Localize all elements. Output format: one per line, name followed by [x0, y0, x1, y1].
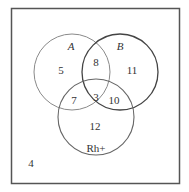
region-rh-only: 12: [90, 120, 101, 132]
region-a-only: 5: [58, 64, 64, 76]
region-outside: 4: [28, 157, 34, 169]
venn-diagram: A B Rh+ 5 8 11 7 3 10 12 4: [0, 0, 189, 192]
set-label-rh: Rh+: [86, 142, 105, 154]
region-a-b: 8: [93, 56, 99, 68]
region-a-b-rh: 3: [93, 91, 99, 103]
set-label-b: B: [117, 40, 124, 52]
region-b-rh: 10: [109, 94, 121, 106]
region-b-only: 11: [127, 64, 138, 76]
set-label-a: A: [67, 40, 75, 52]
region-a-rh: 7: [71, 94, 77, 106]
